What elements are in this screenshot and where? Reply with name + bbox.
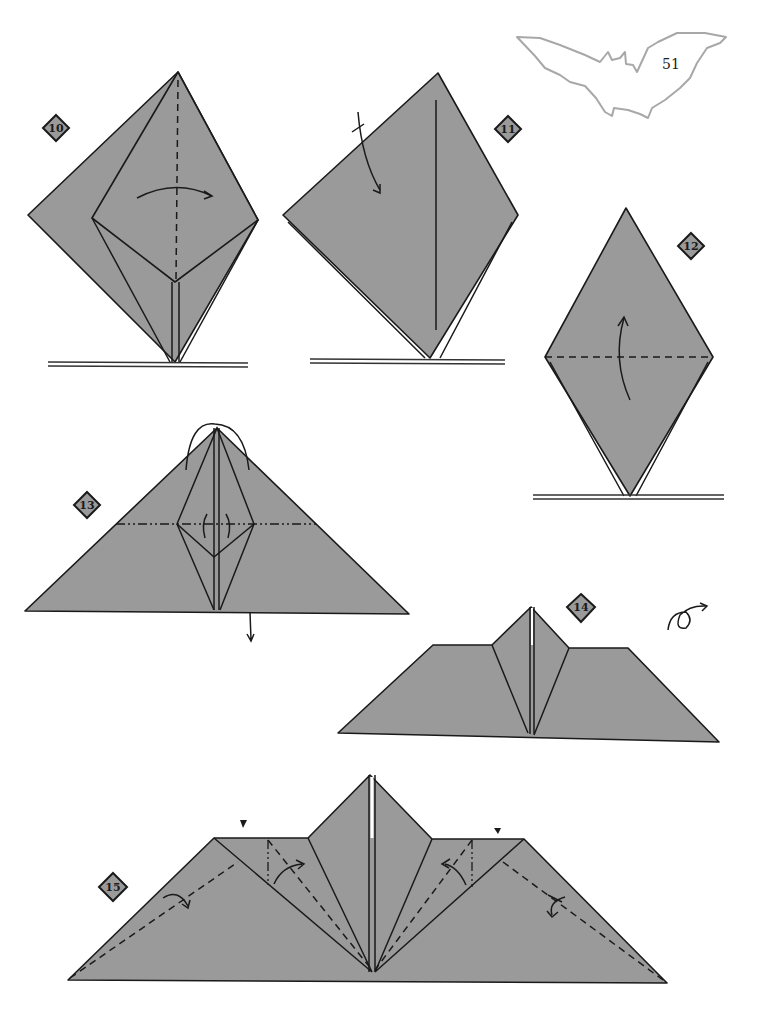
- step-10-diagram: [28, 72, 258, 367]
- step-15-badge: 15: [99, 873, 127, 901]
- svg-text:14: 14: [573, 601, 589, 614]
- svg-text:11: 11: [500, 123, 515, 136]
- turn-over-icon: [668, 603, 707, 630]
- svg-text:13: 13: [79, 499, 94, 512]
- step-14-diagram: [338, 607, 719, 742]
- page-number: 51: [662, 56, 680, 72]
- step-12-badge: 12: [678, 233, 704, 259]
- step-14-badge: 14: [567, 594, 595, 622]
- svg-text:15: 15: [105, 881, 120, 894]
- step-13-diagram: [25, 424, 409, 641]
- step-13-badge: 13: [74, 492, 100, 518]
- bat-icon: [517, 33, 726, 118]
- step-15-diagram: [68, 775, 667, 983]
- step-10-badge: 10: [43, 115, 69, 141]
- svg-text:10: 10: [48, 122, 64, 135]
- svg-text:12: 12: [683, 240, 698, 253]
- step-11-badge: 11: [495, 116, 521, 142]
- origami-instructions-page: 51 10 11 12: [0, 0, 765, 1023]
- step-11-diagram: [283, 73, 518, 364]
